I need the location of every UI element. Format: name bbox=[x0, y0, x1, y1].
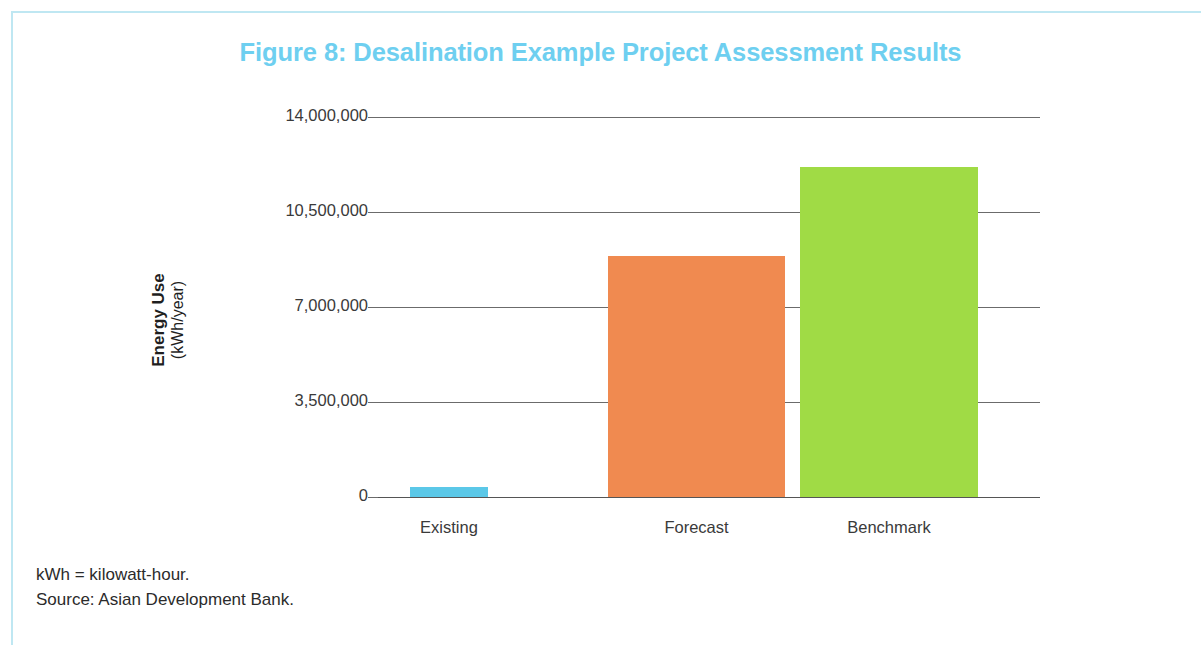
figure-notes: kWh = kilowatt-hour. Source: Asian Devel… bbox=[36, 563, 294, 612]
plot-area bbox=[378, 117, 1040, 497]
note-abbreviation: kWh = kilowatt-hour. bbox=[36, 563, 294, 588]
figure-title: Figure 8: Desalination Example Project A… bbox=[0, 38, 1201, 67]
x-axis-tick-label-existing: Existing bbox=[369, 518, 529, 537]
x-axis-tick-labels: ExistingForecastBenchmark bbox=[378, 518, 1040, 544]
note-source: Source: Asian Development Bank. bbox=[36, 588, 294, 613]
y-axis-title-unit: (kWh/year) bbox=[169, 220, 188, 420]
y-axis-tick-labels: 03,500,0007,000,00010,500,00014,000,000 bbox=[190, 117, 368, 497]
y-axis-title-main: Energy Use bbox=[149, 220, 169, 420]
x-axis-tick-label-benchmark: Benchmark bbox=[809, 518, 969, 537]
gridline bbox=[378, 117, 1040, 118]
y-axis-tick-label: 7,000,000 bbox=[198, 296, 368, 315]
gridline bbox=[378, 497, 1040, 498]
y-axis-title: Energy Use (kWh/year) bbox=[149, 220, 187, 420]
bar-benchmark bbox=[800, 167, 978, 497]
y-axis-tick-label: 3,500,000 bbox=[198, 391, 368, 410]
y-axis-tick-label: 14,000,000 bbox=[198, 106, 368, 125]
bar-forecast bbox=[608, 256, 785, 497]
x-axis-tick-label-forecast: Forecast bbox=[617, 518, 777, 537]
y-axis-tick-label: 0 bbox=[198, 486, 368, 505]
bar-existing bbox=[410, 487, 488, 497]
figure-container: Figure 8: Desalination Example Project A… bbox=[0, 0, 1201, 645]
y-axis-tick-label: 10,500,000 bbox=[198, 201, 368, 220]
